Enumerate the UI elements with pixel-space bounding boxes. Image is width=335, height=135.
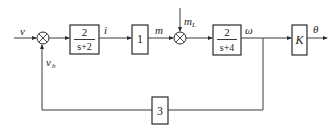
arrow-icon — [323, 36, 328, 40]
block-transfer-2-over-s-plus-4: 2 s+4 — [213, 25, 241, 55]
arrow-icon — [40, 44, 44, 49]
label-v-b-subscript: b — [52, 62, 56, 70]
block1-numerator: 2 — [82, 26, 88, 38]
block2-value: 1 — [137, 32, 143, 46]
block3-numerator: 2 — [224, 26, 230, 38]
block-gain-k: K — [292, 25, 307, 55]
disturbance-signal: m L — [178, 8, 196, 32]
label-theta: θ — [313, 23, 319, 35]
input-signal: v — [14, 25, 37, 40]
arrow-icon — [32, 36, 37, 40]
label-i: i — [104, 24, 107, 36]
connector-sum1-block1 — [49, 36, 70, 40]
arrow-icon — [169, 36, 174, 40]
arrow-icon — [127, 36, 132, 40]
arrow-icon — [65, 36, 70, 40]
arrow-icon — [178, 27, 182, 32]
block3-denominator: s+4 — [220, 42, 235, 53]
feedback-block-value: 3 — [157, 104, 163, 118]
connector-block2-sum2: m — [148, 24, 174, 40]
label-m-l: m — [184, 15, 192, 27]
block-diagram: v 2 s+2 i 1 m m L — [0, 0, 335, 135]
block4-value: K — [294, 33, 304, 47]
arrow-icon — [287, 36, 292, 40]
output-signal: θ — [307, 23, 328, 40]
block-transfer-2-over-s-plus-2: 2 s+2 — [70, 25, 99, 54]
connector-block3-block4: ω — [241, 24, 292, 40]
label-v: v — [20, 25, 25, 37]
label-omega: ω — [245, 24, 253, 36]
block1-denominator: s+2 — [77, 41, 92, 52]
label-m-l-subscript: L — [191, 21, 196, 29]
connector-sum2-block3 — [186, 36, 213, 40]
block-feedback-gain-3: 3 — [152, 97, 168, 124]
connector-block1-block2: i — [99, 24, 132, 40]
summing-junction-1 — [37, 32, 49, 44]
label-m: m — [155, 24, 163, 36]
arrow-icon — [208, 36, 213, 40]
label-v-b: v — [46, 56, 51, 68]
block-gain-1: 1 — [132, 25, 148, 54]
summing-junction-2 — [174, 32, 186, 44]
